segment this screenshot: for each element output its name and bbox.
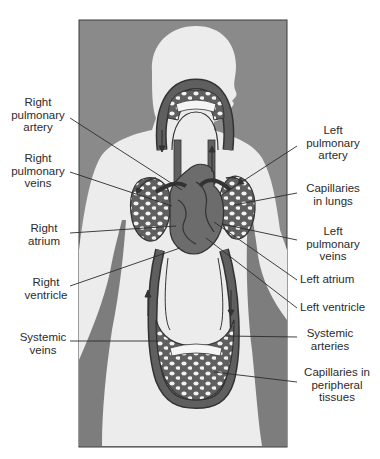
label-systemic-arteries: Systemic arteries	[298, 327, 362, 352]
label-left-pulmonary-veins: Left pulmonary veins	[298, 225, 368, 263]
label-right-pulmonary-veins: Right pulmonary veins	[6, 152, 70, 190]
label-right-atrium: Right atrium	[22, 222, 66, 247]
label-right-pulmonary-artery: Right pulmonary artery	[6, 96, 70, 134]
label-systemic-veins: Systemic veins	[16, 331, 70, 356]
label-left-atrium: Left atrium	[300, 273, 380, 286]
label-left-pulmonary-artery: Left pulmonary artery	[298, 124, 368, 162]
label-left-ventricle: Left ventricle	[300, 301, 380, 314]
label-right-ventricle: Right ventricle	[22, 276, 70, 301]
label-capillaries-in-lungs: Capillaries in lungs	[298, 182, 368, 207]
label-capillaries-in-peripheral-tissues: Capillaries in peripheral tissues	[298, 366, 376, 404]
